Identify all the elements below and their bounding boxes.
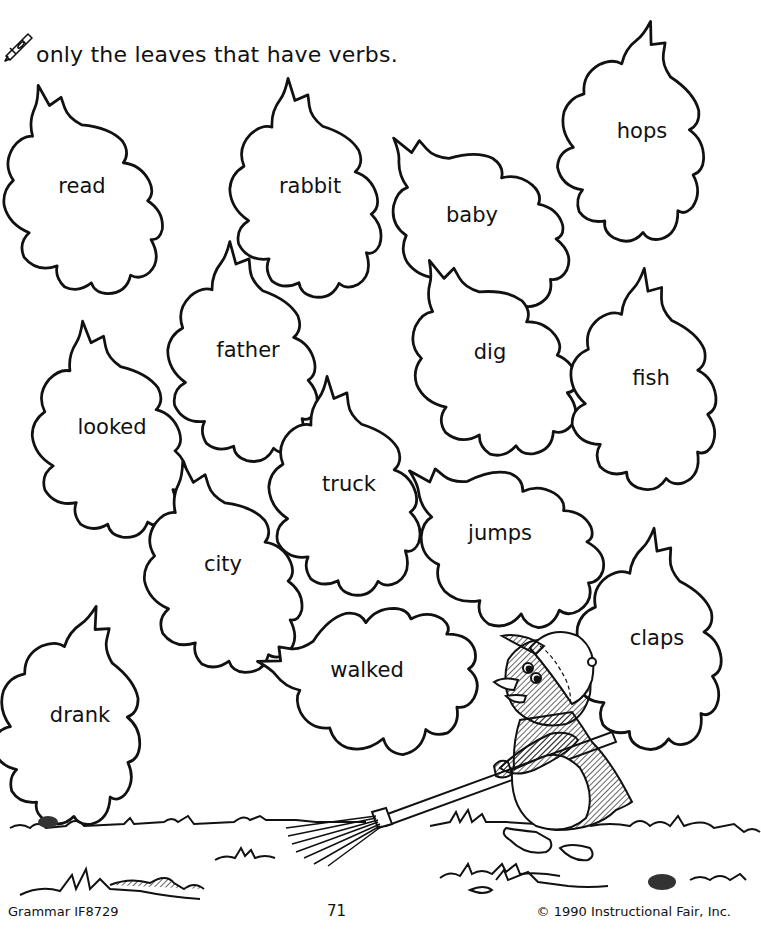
- crayon-icon: [4, 32, 34, 66]
- footer-book-title: Grammar IF8729: [8, 904, 119, 919]
- leaf-word: truck: [322, 472, 376, 496]
- instruction: only the leaves that have verbs.: [4, 26, 398, 66]
- leaf-word: dig: [474, 340, 507, 364]
- leaf-word: jumps: [468, 521, 532, 545]
- leaf-word: baby: [446, 203, 498, 227]
- instruction-text: only the leaves that have verbs.: [36, 44, 398, 66]
- leaf-word: hops: [617, 119, 667, 143]
- leaf-word: father: [216, 338, 279, 362]
- leaf-word: walked: [330, 658, 404, 682]
- leaf-word: rabbit: [279, 174, 341, 198]
- leaf-word: claps: [630, 626, 685, 650]
- page-number: 71: [327, 902, 346, 920]
- copyright: © 1990 Instructional Fair, Inc.: [537, 904, 731, 919]
- leaf-word: fish: [632, 366, 669, 390]
- rake: [286, 732, 616, 866]
- leaf-word: city: [204, 552, 242, 576]
- leaf-word: drank: [50, 703, 110, 727]
- leaf-word: looked: [77, 415, 146, 439]
- leaf-word: read: [58, 174, 105, 198]
